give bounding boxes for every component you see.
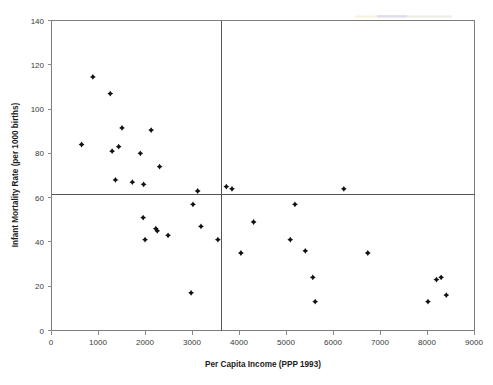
x-tick-label: 6000 <box>324 338 342 347</box>
data-point <box>287 237 293 243</box>
x-tick-label: 7000 <box>371 338 389 347</box>
data-point <box>90 74 96 80</box>
data-point <box>365 250 371 256</box>
y-tick-label: 100 <box>31 105 45 114</box>
x-tick-label: 3000 <box>183 338 201 347</box>
data-point <box>137 150 143 156</box>
data-point <box>113 177 119 183</box>
data-point <box>198 224 204 230</box>
plot-frame <box>52 21 475 331</box>
data-point <box>141 181 147 187</box>
x-tick-label: 4000 <box>230 338 248 347</box>
data-point <box>425 299 431 305</box>
y-tick-label: 120 <box>31 61 45 70</box>
data-point <box>190 201 196 207</box>
data-point <box>312 299 318 305</box>
data-point <box>119 125 125 131</box>
y-tick-label: 60 <box>35 194 44 203</box>
data-point <box>341 186 347 192</box>
data-point <box>238 250 244 256</box>
data-point <box>195 188 201 194</box>
scan-artifact <box>355 16 377 18</box>
y-tick-label: 20 <box>35 282 44 291</box>
x-tick-label: 0 <box>49 338 54 347</box>
x-tick-label: 8000 <box>418 338 436 347</box>
data-point <box>140 215 146 221</box>
x-axis-ticks <box>52 331 475 335</box>
y-tick-label: 80 <box>35 149 44 158</box>
y-axis-ticks <box>48 21 52 331</box>
plot-canvas: 0 1000 2000 3000 4000 5000 6000 7000 800… <box>0 0 493 385</box>
data-point <box>302 248 308 254</box>
data-point <box>310 274 316 280</box>
data-point <box>109 148 115 154</box>
data-point <box>157 164 163 170</box>
scan-artifact <box>407 16 452 18</box>
data-point <box>188 290 194 296</box>
x-axis-title: Per Capita Income (PPP 1993) <box>205 360 321 369</box>
scatter-plot-figure: 0 1000 2000 3000 4000 5000 6000 7000 800… <box>0 0 493 385</box>
data-point <box>116 144 122 150</box>
x-tick-label: 1000 <box>89 338 107 347</box>
y-tick-label: 0 <box>40 327 45 336</box>
data-point <box>148 127 154 133</box>
y-tick-label: 40 <box>35 238 44 247</box>
data-point <box>443 292 449 298</box>
data-point <box>292 201 298 207</box>
y-axis-title: Infant Mortality Rate (per 1000 births) <box>11 102 20 247</box>
data-point <box>79 142 85 148</box>
data-point <box>107 91 113 97</box>
x-tick-label: 9000 <box>465 338 483 347</box>
data-point <box>438 274 444 280</box>
x-tick-label: 2000 <box>136 338 154 347</box>
scan-artifact <box>377 15 407 17</box>
data-point-group <box>79 74 450 305</box>
x-tick-label: 5000 <box>277 338 295 347</box>
y-tick-label: 140 <box>31 17 45 26</box>
data-point <box>251 219 257 225</box>
data-point <box>229 186 235 192</box>
y-axis-tick-labels: 0 20 40 60 80 100 120 140 <box>31 17 45 336</box>
x-axis-tick-labels: 0 1000 2000 3000 4000 5000 6000 7000 800… <box>49 338 484 347</box>
data-point <box>165 232 171 238</box>
data-point <box>215 237 221 243</box>
data-point <box>142 237 148 243</box>
data-point <box>129 179 135 185</box>
data-point <box>434 277 440 283</box>
data-point <box>223 184 229 190</box>
